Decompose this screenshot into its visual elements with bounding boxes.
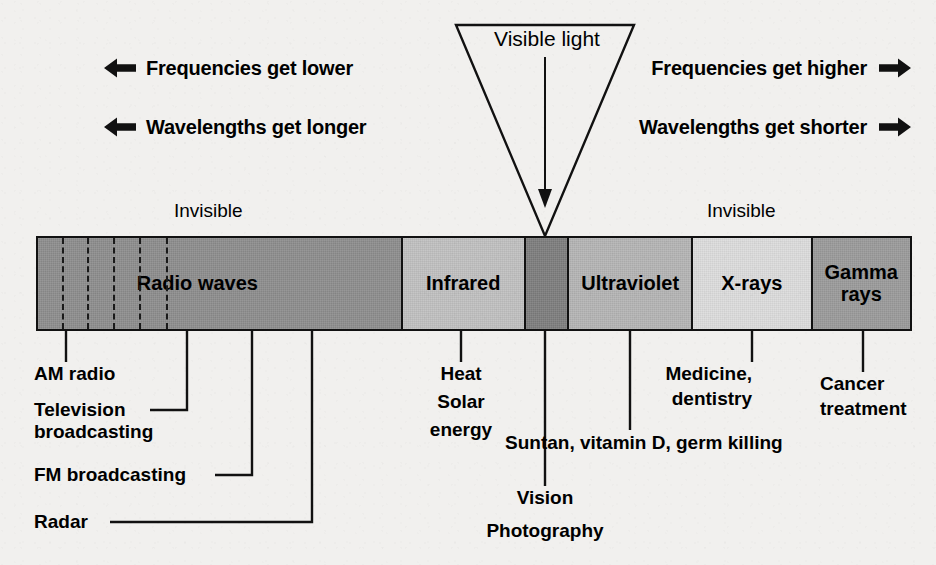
segment-label: Ultraviolet [581, 273, 679, 294]
direction-frequencies-lower: Frequencies get lower [103, 57, 353, 79]
callout-am-radio: AM radio [34, 363, 115, 385]
callout-medicine: Medicine, [552, 363, 752, 385]
callout-cancer: Cancer [820, 373, 884, 395]
spectrum-segment-x-rays[interactable]: X-rays [691, 238, 810, 329]
arrow-left-icon [103, 57, 137, 79]
visible-light-label: Visible light [472, 28, 622, 49]
direction-label: Frequencies get higher [651, 58, 867, 78]
direction-frequencies-higher: Frequencies get higher [651, 57, 912, 79]
spectrum-segment-visible-light[interactable] [524, 238, 568, 329]
callout-television: Television [34, 399, 126, 421]
segment-label: Infrared [426, 273, 500, 294]
direction-label: Frequencies get lower [146, 58, 353, 78]
direction-wavelengths-shorter: Wavelengths get shorter [639, 116, 912, 138]
invisible-label-left: Invisible [174, 200, 243, 222]
spectrum-segment-gamma-rays[interactable]: Gammarays [811, 238, 910, 329]
callout-vision: Vision [485, 487, 605, 509]
spectrum-segment-infrared[interactable]: Infrared [401, 238, 524, 329]
segment-label: Gammarays [825, 262, 898, 304]
callout-photography: Photography [475, 520, 615, 542]
callout-radar: Radar [34, 511, 88, 533]
radio-subdivision-4 [139, 238, 141, 329]
invisible-label-right: Invisible [707, 200, 776, 222]
radio-subdivision-2 [87, 238, 89, 329]
arrow-right-icon [878, 57, 912, 79]
radio-subdivision-5 [166, 238, 168, 329]
segment-label: Radio waves [137, 273, 258, 294]
direction-label: Wavelengths get shorter [639, 117, 867, 137]
callout-fm-broadcasting: FM broadcasting [34, 464, 186, 486]
electromagnetic-spectrum-figure: Frequencies get lower Wavelengths get lo… [0, 0, 936, 565]
radio-subdivision-3 [113, 238, 115, 329]
callout-suntan: Suntan, vitamin D, germ killing [505, 432, 783, 454]
down-arrow-icon [538, 189, 552, 208]
callout-television-broadcasting: broadcasting [34, 421, 153, 443]
direction-wavelengths-longer: Wavelengths get longer [103, 116, 366, 138]
callout-solar-energy: energy [411, 419, 511, 441]
callout-cancer-treatment: treatment [820, 398, 907, 420]
segment-label: X-rays [721, 273, 782, 294]
direction-label: Wavelengths get longer [146, 117, 366, 137]
spectrum-segment-radio-waves[interactable]: Radio waves [38, 238, 401, 329]
spectrum-segment-ultraviolet[interactable]: Ultraviolet [567, 238, 691, 329]
spectrum-bar: Radio waves Infrared Ultraviolet X-rays … [36, 236, 912, 331]
arrow-left-icon [103, 116, 137, 138]
radio-subdivision-1 [62, 238, 64, 329]
visible-light-cone [456, 25, 634, 236]
callout-dentistry: dentistry [552, 388, 752, 410]
callout-solar: Solar [411, 391, 511, 413]
arrow-right-icon [878, 116, 912, 138]
callout-heat: Heat [411, 363, 511, 385]
